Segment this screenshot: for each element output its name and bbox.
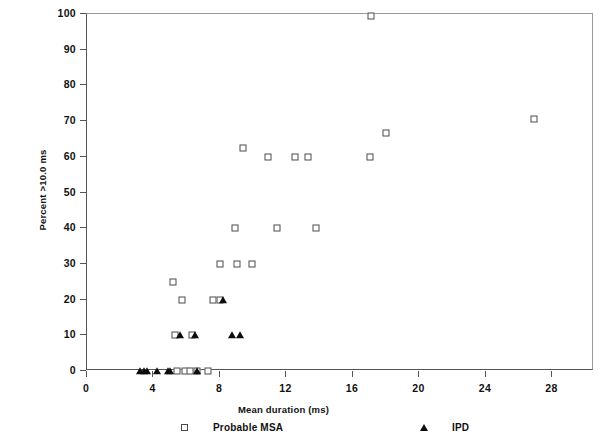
data-point-probable-msa [273, 225, 280, 232]
data-point-ipd [153, 367, 161, 374]
data-point-ipd [143, 367, 151, 374]
y-axis-tick-label: 50 [0, 186, 85, 198]
x-axis-tick-mark [86, 371, 87, 377]
x-axis-title: Mean duration (ms) [0, 404, 603, 415]
legend-item-ipd: IPD [452, 422, 469, 433]
data-point-probable-msa [216, 260, 223, 267]
data-point-probable-msa [305, 153, 312, 160]
x-axis-tick-label: 20 [412, 382, 424, 394]
filled-triangle-icon [420, 424, 428, 431]
data-point-probable-msa [231, 225, 238, 232]
x-axis-tick-label: 12 [279, 382, 291, 394]
data-point-probable-msa [170, 278, 177, 285]
data-point-ipd [166, 367, 174, 374]
data-point-probable-msa [313, 225, 320, 232]
data-point-ipd [228, 331, 236, 338]
data-point-probable-msa [531, 116, 538, 123]
y-axis-tick-label: 70 [0, 114, 85, 126]
legend-item-probable-msa: Probable MSA [213, 422, 283, 433]
x-axis-tick-label: 24 [479, 382, 491, 394]
plot-area [86, 13, 593, 370]
x-axis-tick-mark [352, 371, 353, 377]
y-axis-tick-label: 40 [0, 221, 85, 233]
y-axis-tick-label: 20 [0, 293, 85, 305]
data-point-probable-msa [291, 153, 298, 160]
data-point-ipd [193, 367, 201, 374]
x-axis-tick-mark [219, 371, 220, 377]
x-axis-tick-label: 16 [346, 382, 358, 394]
y-axis-tick-label: 60 [0, 150, 85, 162]
data-point-probable-msa [240, 144, 247, 151]
y-axis-tick-label: 80 [0, 78, 85, 90]
y-axis-tick-label: 90 [0, 43, 85, 55]
open-square-icon [181, 424, 188, 431]
y-axis-tick-label: 30 [0, 257, 85, 269]
x-axis-tick-label: 4 [149, 382, 155, 394]
legend: Probable MSA IPD [0, 419, 603, 437]
data-point-probable-msa [205, 368, 212, 375]
legend-label-probable-msa: Probable MSA [213, 422, 283, 433]
y-axis-tick-label: 10 [0, 328, 85, 340]
data-point-probable-msa [383, 129, 390, 136]
x-axis-tick-label: 8 [216, 382, 222, 394]
data-point-probable-msa [366, 153, 373, 160]
legend-label-ipd: IPD [452, 422, 469, 433]
x-axis-tick-label: 28 [545, 382, 557, 394]
scatter-chart: Percent >10.0 ms 0102030405060708090100 … [0, 0, 603, 437]
data-point-probable-msa [248, 260, 255, 267]
x-axis-tick-mark [551, 371, 552, 377]
y-axis-tick-label: 0 [0, 364, 85, 376]
x-axis-tick-mark [285, 371, 286, 377]
x-axis-tick-mark [418, 371, 419, 377]
data-point-probable-msa [173, 368, 180, 375]
data-point-probable-msa [178, 296, 185, 303]
x-axis-title-text: Mean duration (ms) [238, 404, 329, 415]
data-point-ipd [176, 331, 184, 338]
data-point-probable-msa [265, 153, 272, 160]
data-point-probable-msa [233, 260, 240, 267]
x-axis-tick-mark [485, 371, 486, 377]
data-point-ipd [219, 296, 227, 303]
x-axis-tick-label: 0 [83, 382, 89, 394]
data-point-probable-msa [368, 12, 375, 19]
data-point-ipd [236, 331, 244, 338]
y-axis-tick-label: 100 [0, 7, 85, 19]
data-point-ipd [191, 331, 199, 338]
